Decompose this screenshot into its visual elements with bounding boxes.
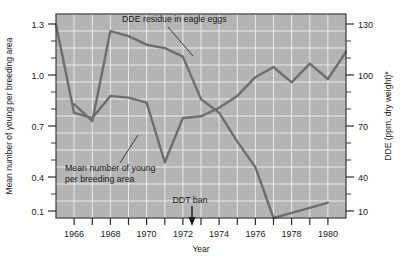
y-axis-title-left: Mean number of young per breeding area: [4, 37, 14, 194]
annotation-dde-residue: DDE residue in eagle eggs: [122, 14, 227, 24]
right-tick-label-40: 40: [358, 173, 368, 183]
right-tick-label-100: 100: [358, 71, 373, 81]
x-tick-label-1970: 1970: [137, 229, 157, 239]
left-tick-label-0-7: 0.7: [31, 122, 44, 132]
eagle-ddt-chart: 1.3 1.0 0.7 0.4 0.1 130 100 70 40 10: [0, 0, 405, 264]
right-tick-label-70: 70: [358, 122, 368, 132]
x-tick-label-1966: 1966: [64, 229, 84, 239]
right-tick-label-10: 10: [358, 207, 368, 217]
left-tick-label-1-3: 1.3: [31, 20, 44, 30]
x-axis-title: Year: [192, 244, 209, 254]
annotation-mean-young-line1: Mean number of young: [65, 163, 156, 173]
x-tick-label-1980: 1980: [318, 229, 338, 239]
x-tick-label-1976: 1976: [245, 229, 265, 239]
annotation-mean-young-line2: per breeding area: [65, 174, 135, 184]
x-tick-label-1974: 1974: [209, 229, 229, 239]
right-tick-label-130: 130: [358, 20, 373, 30]
left-tick-label-1-0: 1.0: [31, 71, 44, 81]
x-tick-label-1972: 1972: [173, 229, 193, 239]
x-tick-label-1968: 1968: [100, 229, 120, 239]
x-tick-label-1978: 1978: [282, 229, 302, 239]
left-tick-label-0-4: 0.4: [31, 173, 44, 183]
left-tick-label-0-1: 0.1: [31, 207, 44, 217]
annotation-ddt-ban: DDT ban: [172, 195, 207, 205]
y-axis-title-right: DDE (ppm, dry weight)*: [383, 71, 393, 161]
